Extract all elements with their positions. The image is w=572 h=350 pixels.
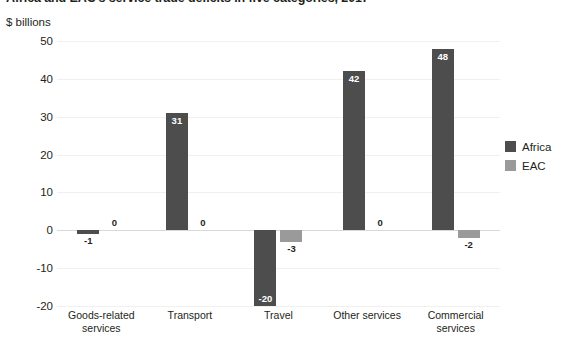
y-axis-tick-label: -20: [9, 300, 53, 312]
chart-legend: Africa EAC: [505, 137, 571, 175]
x-axis-category-label: Transport: [144, 309, 236, 322]
legend-label-africa: Africa: [522, 141, 551, 153]
bar-group: -10: [57, 41, 146, 306]
bar-value-label: 42: [334, 73, 374, 84]
bar-value-label: 48: [423, 51, 463, 62]
y-axis-unit-caption: $ billions: [6, 16, 51, 29]
bar-value-label: 0: [183, 217, 223, 228]
gridline: [57, 306, 500, 307]
x-axis-category-labels: Goods-related servicesTransportTravelOth…: [57, 309, 500, 349]
y-axis-tick-label: 20: [9, 149, 53, 161]
bar-group: 420: [323, 41, 412, 306]
bar-group: 310: [146, 41, 235, 306]
x-axis-category-label: Goods-related services: [55, 309, 147, 335]
bar-group: 48-2: [411, 41, 500, 306]
y-axis-tick-label: 30: [9, 111, 53, 123]
bar-value-label: 0: [94, 217, 134, 228]
bar-value-label: 0: [360, 217, 400, 228]
x-axis-category-label: Commercial services: [410, 309, 502, 335]
bar-value-label: -20: [245, 293, 285, 304]
x-axis-category-label: Travel: [233, 309, 325, 322]
bar-africa[interactable]: [432, 49, 454, 231]
plot-area: -10310-20-342048-2: [57, 41, 500, 306]
legend-label-eac: EAC: [522, 160, 546, 172]
bar-value-label: -1: [68, 235, 108, 246]
bar-africa[interactable]: [343, 71, 365, 230]
bar-value-label: -3: [271, 243, 311, 254]
bar-africa[interactable]: [77, 230, 99, 234]
bar-group: -20-3: [234, 41, 323, 306]
y-axis-tick-label: 40: [9, 73, 53, 85]
y-axis-tick-label: 50: [9, 35, 53, 47]
legend-item-africa[interactable]: Africa: [505, 137, 571, 156]
y-axis-tick-labels: 50403020100-10-20: [0, 41, 53, 306]
y-axis-tick-label: 0: [9, 224, 53, 236]
x-axis-category-label: Other services: [321, 309, 413, 322]
y-axis-tick-label: 10: [9, 186, 53, 198]
bar-eac[interactable]: [458, 230, 480, 238]
bar-value-label: -2: [449, 239, 489, 250]
legend-swatch-icon-africa: [505, 141, 516, 152]
y-axis-tick-label: -10: [9, 262, 53, 274]
bar-eac[interactable]: [280, 230, 302, 241]
chart-title: Africa and EAC's service trade deficits …: [6, 0, 566, 5]
legend-item-eac[interactable]: EAC: [505, 156, 571, 175]
chart-page: Africa and EAC's service trade deficits …: [0, 0, 572, 350]
bar-africa[interactable]: [166, 113, 188, 230]
legend-swatch-icon-eac: [505, 160, 516, 171]
bar-value-label: 31: [157, 115, 197, 126]
